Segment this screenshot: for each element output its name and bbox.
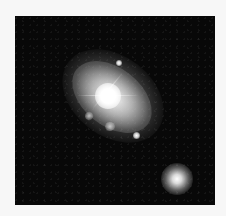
astronomy-image-frame — [15, 16, 215, 205]
star-forming-knot — [105, 122, 115, 131]
foreground-star — [116, 60, 122, 66]
main-galaxy-core — [95, 83, 121, 109]
foreground-star — [133, 132, 140, 139]
star-forming-knot — [85, 112, 93, 120]
diffraction-spike — [77, 95, 139, 96]
companion-galaxy — [161, 163, 193, 195]
